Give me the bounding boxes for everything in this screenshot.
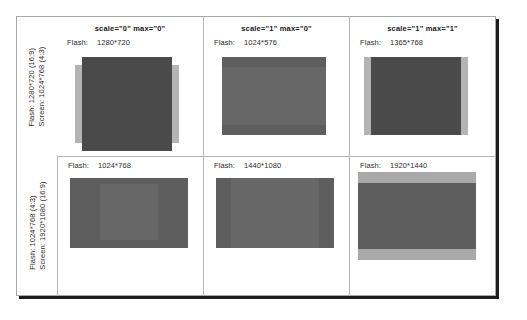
cell-r2c3: Flash:1920*1440	[349, 156, 495, 295]
flash-size-label-r1c3: Flash:1365*768	[360, 38, 423, 47]
column-header-scale0-max0: scale="0" max="0"	[95, 24, 166, 34]
flash-rect-r1c2	[222, 67, 326, 125]
flash-size-label-r2c3: Flash:1920*1440	[360, 161, 427, 170]
flash-size-label-r2c2: Flash:1440*1080	[214, 161, 281, 170]
stage-r1c3	[350, 47, 495, 156]
cell-r1c2: scale="1" max="0" Flash:1024*576	[203, 17, 349, 156]
stage-r2c3	[350, 170, 495, 295]
column-header-scale1-max1: scale="1" max="1"	[387, 24, 458, 34]
flash-value-r2c1: 1024*768	[98, 161, 131, 170]
column-header-scale1-max0: scale="1" max="0"	[241, 24, 312, 34]
flash-key-r2c1: Flash:	[68, 161, 89, 170]
flash-key-r1c3: Flash:	[360, 38, 381, 47]
stage-r2c1	[58, 170, 203, 295]
flash-value-r1c1: 1280*720	[97, 38, 130, 47]
cell-r2c1: Flash:1024*768	[57, 156, 203, 295]
row-label-flash-line-2: Flash: 1024*768 (4:3)	[28, 195, 37, 269]
flash-key-r2c3: Flash:	[360, 161, 381, 170]
row-label-flash-line: Flash: 1280*720 (16:9)	[28, 48, 37, 127]
flash-key-r2c2: Flash:	[214, 161, 235, 170]
cell-r2c2: Flash:1440*1080	[203, 156, 349, 295]
flash-key-r1c1: Flash:	[67, 38, 88, 47]
cell-r1c1: scale="0" max="0" Flash:1280*720	[57, 17, 203, 156]
row-label-screen-line: Screen: 1024*768 (4:3)	[38, 47, 47, 127]
cell-r1c3: scale="1" max="1" Flash:1365*768	[349, 17, 495, 156]
stage-r2c2	[204, 170, 349, 295]
flash-value-r2c2: 1440*1080	[244, 161, 281, 170]
flash-rect-r1c1	[82, 57, 172, 151]
stage-r1c2	[204, 47, 349, 156]
flash-rect-r1c3	[371, 57, 461, 135]
diagram-panel: Screen: 1024*768 (4:3) Flash: 1280*720 (…	[16, 16, 496, 296]
flash-key-r1c2: Flash:	[214, 38, 235, 47]
flash-value-r1c3: 1365*768	[390, 38, 423, 47]
row-label-screen-1024x768: Screen: 1024*768 (4:3) Flash: 1280*720 (…	[17, 17, 57, 156]
flash-rect-r2c1	[100, 184, 158, 240]
flash-size-label-r1c1: Flash:1280*720	[67, 38, 130, 47]
comparison-grid: Screen: 1024*768 (4:3) Flash: 1280*720 (…	[17, 17, 495, 295]
flash-size-label-r1c2: Flash:1024*576	[214, 38, 277, 47]
screen-rect-r2c3	[358, 183, 476, 249]
flash-size-label-r2c1: Flash:1024*768	[68, 161, 131, 170]
flash-rect-r2c2	[231, 178, 319, 248]
flash-value-r2c3: 1920*1440	[390, 161, 427, 170]
row-label-screen-line-2: Screen: 1920*1080 (16:9)	[38, 181, 47, 269]
row-label-screen-1920x1080: Screen: 1920*1080 (16:9) Flash: 1024*768…	[17, 156, 57, 295]
stage-r1c1	[57, 47, 203, 156]
flash-value-r1c2: 1024*576	[244, 38, 277, 47]
